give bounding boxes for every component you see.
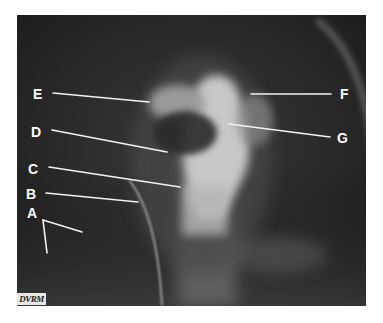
- label-a: A: [27, 206, 37, 220]
- label-b: B: [26, 187, 36, 201]
- watermark-logo: DVRM: [17, 293, 46, 305]
- label-f: F: [340, 87, 349, 101]
- label-e: E: [33, 87, 42, 101]
- label-d: D: [31, 125, 41, 139]
- radiograph-image: E D C B A F G: [17, 15, 366, 306]
- label-g: G: [337, 131, 348, 145]
- radiograph-graphic: [17, 15, 366, 306]
- label-c: C: [28, 162, 38, 176]
